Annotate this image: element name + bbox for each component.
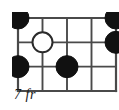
finger-dot xyxy=(12,56,29,78)
finger-dot xyxy=(56,56,78,78)
fretboard-svg xyxy=(12,12,119,98)
chord-diagram: 7 fr xyxy=(0,0,119,110)
open-circle xyxy=(33,32,53,52)
finger-dot xyxy=(12,12,29,29)
finger-dot xyxy=(105,12,119,29)
fretboard-grid xyxy=(12,12,110,85)
fret-position-label: 7 fr xyxy=(14,87,36,103)
finger-dot xyxy=(105,31,119,53)
